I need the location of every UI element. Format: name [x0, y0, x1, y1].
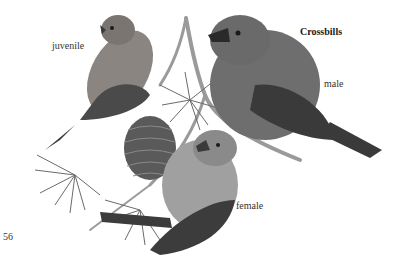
male-crossbill — [208, 15, 382, 158]
label-juvenile: juvenile — [52, 40, 84, 51]
page-number: 56 — [3, 231, 13, 242]
label-female: female — [236, 200, 263, 211]
label-male: male — [324, 78, 343, 89]
page-title: Crossbills — [300, 26, 342, 37]
book-page: Crossbills juvenile male female 56 — [0, 0, 398, 263]
